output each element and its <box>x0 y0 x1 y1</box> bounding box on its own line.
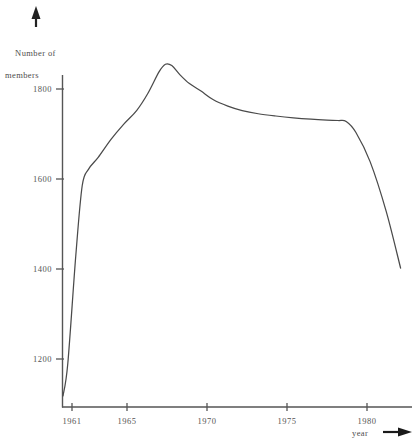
x-tick-label-1975: 1975 <box>267 416 307 426</box>
up-arrow-icon <box>32 6 41 27</box>
x-axis-title: year <box>352 428 368 439</box>
y-tick-label-1400: 1400 <box>18 264 52 274</box>
data-series-line <box>63 64 401 396</box>
y-tick-label-1800: 1800 <box>18 84 52 94</box>
y-axis-title-line1: Number of <box>15 48 56 58</box>
x-tick-label-1961: 1961 <box>52 416 92 426</box>
y-axis-title-line2: members <box>5 70 77 81</box>
x-tick-label-1970: 1970 <box>187 416 227 426</box>
x-tick-label-1980: 1980 <box>347 416 387 426</box>
x-tick-label-1965: 1965 <box>107 416 147 426</box>
y-tick-label-1200: 1200 <box>18 354 52 364</box>
chart-figure: Number of members year 1800 1600 1400 12… <box>0 0 418 447</box>
y-tick-label-1600: 1600 <box>18 174 52 184</box>
right-arrow-icon <box>383 428 412 437</box>
